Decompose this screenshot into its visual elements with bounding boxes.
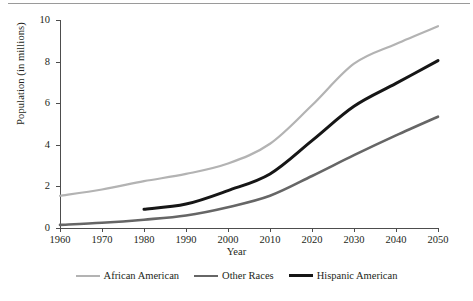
y-tick-label: 0 bbox=[24, 223, 50, 233]
x-axis-label: Year bbox=[0, 246, 473, 257]
legend-line-swatch bbox=[76, 275, 100, 277]
legend-item-other-races[interactable]: Other Races bbox=[194, 270, 274, 281]
x-tick-label: 2040 bbox=[373, 235, 419, 245]
y-tick-label: 10 bbox=[24, 15, 50, 25]
legend-item-hispanic-american[interactable]: Hispanic American bbox=[289, 270, 398, 281]
y-tick-label: 8 bbox=[24, 57, 50, 67]
x-tick-label: 1960 bbox=[37, 235, 83, 245]
chart-figure: Population (in millions) 0246810 1960197… bbox=[0, 0, 473, 301]
y-tick-label: 4 bbox=[24, 140, 50, 150]
series-line-other-races bbox=[60, 117, 438, 225]
x-tick-label: 1990 bbox=[163, 235, 209, 245]
x-tick-label: 1970 bbox=[79, 235, 125, 245]
chart-legend: African AmericanOther RacesHispanic Amer… bbox=[0, 270, 473, 281]
series-line-african-american bbox=[60, 26, 438, 196]
x-tick-label: 2010 bbox=[247, 235, 293, 245]
legend-line-swatch bbox=[289, 274, 313, 277]
x-tick-label: 1980 bbox=[121, 235, 167, 245]
legend-item-african-american[interactable]: African American bbox=[76, 270, 180, 281]
axis-lines bbox=[56, 20, 439, 232]
legend-label: Other Races bbox=[222, 270, 274, 281]
x-tick-label: 2000 bbox=[205, 235, 251, 245]
x-tick-label: 2050 bbox=[415, 235, 461, 245]
x-tick-label: 2030 bbox=[331, 235, 377, 245]
legend-line-swatch bbox=[194, 275, 218, 277]
legend-label: Hispanic American bbox=[317, 270, 398, 281]
y-tick-label: 2 bbox=[24, 181, 50, 191]
y-tick-label: 6 bbox=[24, 98, 50, 108]
data-series-layer bbox=[60, 26, 438, 225]
legend-label: African American bbox=[104, 270, 180, 281]
x-tick-label: 2020 bbox=[289, 235, 335, 245]
